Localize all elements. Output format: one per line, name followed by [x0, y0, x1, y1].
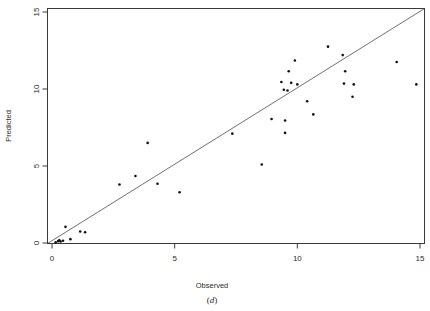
data-point [84, 231, 87, 234]
data-point [312, 113, 315, 116]
data-point [134, 175, 137, 178]
x-tick-label-5: 5 [172, 254, 177, 263]
y-axis-ticks [43, 12, 48, 243]
data-point [287, 70, 290, 73]
data-point [294, 59, 297, 62]
scatter-points-group [54, 45, 417, 243]
y-axis-title: Predicted [4, 110, 13, 142]
y-axis-tick-labels: 051015 [32, 7, 41, 245]
x-tick-label-0: 0 [50, 254, 55, 263]
data-point [69, 238, 72, 241]
panel-caption: (d) [207, 295, 218, 305]
data-point [156, 182, 159, 185]
y-tick-label-0: 0 [32, 240, 41, 245]
data-point [306, 100, 309, 103]
data-point [290, 82, 293, 85]
data-point [341, 54, 344, 57]
data-point [415, 83, 418, 86]
caption-close-paren: ) [214, 295, 217, 305]
x-tick-label-10: 10 [293, 254, 302, 263]
data-point [178, 191, 181, 194]
data-point [270, 118, 273, 121]
data-point [62, 239, 65, 242]
data-point [327, 45, 330, 48]
data-point [395, 61, 398, 64]
x-axis-tick-labels: 051015 [50, 254, 425, 263]
data-point [344, 70, 347, 73]
data-point [231, 132, 234, 135]
data-point [146, 142, 149, 145]
x-axis-title: Observed [196, 281, 229, 290]
plot-svg: 051015 051015 Observed Predicted (d) [0, 0, 430, 311]
y-tick-label-10: 10 [32, 84, 41, 93]
data-point [280, 81, 283, 84]
data-point [286, 89, 289, 92]
data-point [343, 82, 346, 85]
scatter-plot-figure: 051015 051015 Observed Predicted (d) [0, 0, 430, 311]
y-tick-label-15: 15 [32, 7, 41, 16]
data-point [64, 226, 67, 229]
y-tick-label-5: 5 [32, 163, 41, 168]
identity-reference-line [48, 9, 425, 244]
data-point [79, 230, 82, 233]
data-point [54, 241, 57, 244]
x-tick-label-15: 15 [416, 254, 425, 263]
x-axis-ticks [52, 244, 420, 249]
data-point [351, 95, 354, 98]
data-point [59, 240, 62, 243]
data-point [296, 83, 299, 86]
data-point [260, 163, 263, 166]
data-point [284, 132, 287, 135]
data-point [284, 119, 287, 122]
data-point [352, 83, 355, 86]
data-point [283, 88, 286, 91]
data-point [118, 183, 121, 186]
